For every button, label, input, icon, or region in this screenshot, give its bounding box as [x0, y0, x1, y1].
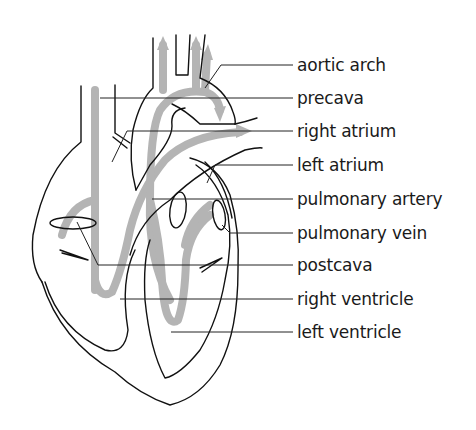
label-left-ventricle: left ventricle	[297, 322, 401, 342]
label-right-atrium: right atrium	[297, 121, 396, 141]
label-pulmonary-vein: pulmonary vein	[297, 223, 427, 243]
label-pulmonary-artery: pulmonary artery	[297, 189, 442, 209]
label-left-atrium: left atrium	[297, 155, 384, 175]
label-precava: precava	[297, 88, 364, 108]
label-aortic-arch: aortic arch	[297, 55, 386, 75]
leader-pulmonary-vein	[222, 225, 293, 233]
heart-diagram: aortic arch precava right atrium left at…	[0, 0, 476, 430]
heart-illustration	[0, 0, 476, 430]
label-postcava: postcava	[297, 255, 372, 275]
leader-aortic-arch	[205, 65, 293, 88]
label-right-ventricle: right ventricle	[297, 289, 414, 309]
